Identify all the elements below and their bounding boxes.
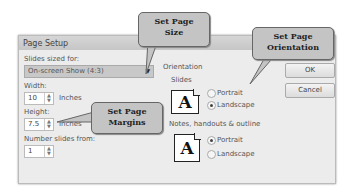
callout-set-page-size: Set PageSize bbox=[138, 12, 210, 47]
callout-set-page-margins: Set PageMargins bbox=[91, 102, 163, 134]
callout-set-page-orientation: Set PageOrientation bbox=[252, 27, 334, 60]
